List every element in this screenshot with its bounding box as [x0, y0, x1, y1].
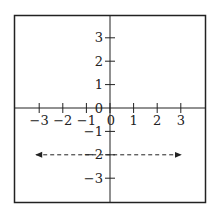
x-tick-label: 1	[129, 113, 137, 128]
y-tick-label: −1	[84, 124, 103, 139]
x-tick-label: 3	[177, 113, 185, 128]
x-tick-label: −3	[30, 113, 49, 128]
y-tick-label: 2	[95, 54, 103, 69]
chart: −3−2−10123 3210−1−2−3	[0, 0, 215, 216]
y-tick-label: 3	[95, 30, 103, 45]
x-ticks: −3−2−10123	[30, 103, 185, 128]
y-tick-label: 0	[95, 101, 103, 116]
x-tick-label: −2	[53, 113, 72, 128]
y-tick-label: −3	[84, 171, 103, 186]
x-tick-label: 2	[153, 113, 161, 128]
x-tick-label: 0	[107, 113, 115, 128]
y-tick-label: 1	[95, 77, 103, 92]
